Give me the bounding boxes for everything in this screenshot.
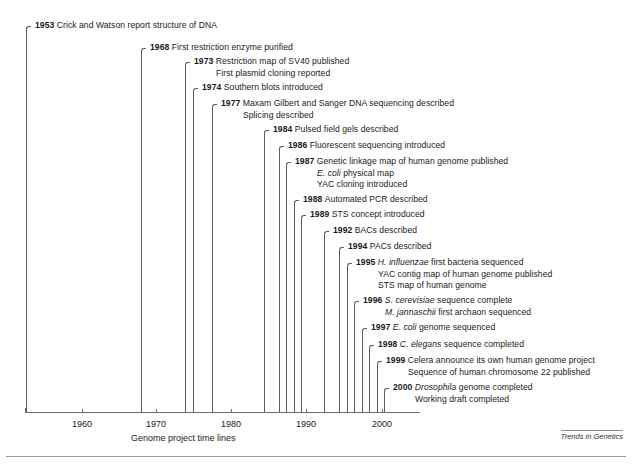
event-label-line: M. jannaschii first archaon sequenced — [363, 307, 531, 319]
event-text: STS map of human genome — [378, 280, 487, 290]
event-species-name: Drosophila — [415, 382, 457, 392]
genome-timeline-figure: 1953 Crick and Watson report structure o… — [0, 0, 635, 471]
event-label-line: Splicing described — [221, 110, 454, 122]
axis-tick-1990 — [306, 409, 307, 413]
event-label-2000: 2000 Drosophila genome completedWorking … — [393, 382, 533, 405]
timeline-leader-1996 — [354, 301, 359, 412]
event-year: 1987 — [295, 156, 317, 166]
event-label-line: 1973 Restriction map of SV40 published — [194, 56, 349, 68]
timeline-leader-1984 — [264, 130, 269, 412]
event-label-1987: 1987 Genetic linkage map of human genome… — [295, 156, 508, 191]
axis-left-cap — [25, 408, 26, 412]
event-text: STS concept introduced — [332, 209, 425, 219]
event-year: 1986 — [288, 140, 310, 150]
event-label-1997: 1997 E. coli genome sequenced — [371, 322, 495, 334]
event-text: genome sequenced — [417, 322, 496, 332]
event-label-line: 1968 First restriction enzyme purified — [150, 42, 293, 54]
event-label-line: 1998 C. elegans sequence completed — [378, 339, 524, 351]
event-label-1998: 1998 C. elegans sequence completed — [378, 339, 524, 351]
timeline-leader-1968 — [141, 48, 146, 412]
event-year: 1973 — [194, 56, 216, 66]
timeline-leader-1992 — [324, 231, 329, 412]
event-year: 1999 — [386, 355, 408, 365]
event-label-line: 1992 BACs described — [333, 225, 417, 237]
event-text: Working draft completed — [415, 394, 509, 404]
event-species-name: C. elegans — [400, 339, 442, 349]
event-label-line: YAC cloning introduced — [295, 179, 508, 191]
timeline-leader-1988 — [294, 200, 299, 412]
event-species-name: E. coli — [317, 168, 341, 178]
event-label-line: 1988 Automated PCR described — [303, 194, 428, 206]
event-species-name: H. influenzae — [378, 257, 429, 267]
event-label-1986: 1986 Fluorescent sequencing introduced — [288, 140, 445, 152]
timeline-leader-2000 — [384, 388, 389, 412]
event-label-1953: 1953 Crick and Watson report structure o… — [35, 20, 217, 32]
event-text: First plasmid cloning reported — [216, 68, 330, 78]
event-text: Crick and Watson report structure of DNA — [57, 20, 217, 30]
event-label-line: 1999 Celera announce its own human genom… — [386, 355, 595, 367]
event-text: Maxam Gilbert and Sanger DNA sequencing … — [243, 98, 454, 108]
event-text: genome completed — [456, 382, 532, 392]
event-year: 1953 — [35, 20, 57, 30]
event-label-1973: 1973 Restriction map of SV40 publishedFi… — [194, 56, 349, 79]
event-label-line: 1987 Genetic linkage map of human genome… — [295, 156, 508, 168]
timeline-leader-1987 — [286, 162, 291, 412]
event-label-1984: 1984 Pulsed field gels described — [273, 124, 398, 136]
event-text: Splicing described — [243, 110, 314, 120]
event-label-line: 1977 Maxam Gilbert and Sanger DNA sequen… — [221, 98, 454, 110]
event-label-line: 1984 Pulsed field gels described — [273, 124, 398, 136]
timeline-leader-1973 — [185, 62, 190, 412]
event-year: 1984 — [273, 124, 295, 134]
axis-tick-label-2000: 2000 — [372, 419, 392, 429]
event-text: Restriction map of SV40 published — [216, 56, 350, 66]
event-label-line: E. coli physical map — [295, 168, 508, 180]
timeline-leader-1999 — [377, 361, 382, 412]
event-label-line: 1997 E. coli genome sequenced — [371, 322, 495, 334]
event-text: first archaon sequenced — [436, 307, 531, 317]
event-year: 1995 — [356, 257, 378, 267]
timeline-leader-1977 — [212, 104, 217, 412]
axis-tick-label-1960: 1960 — [72, 419, 92, 429]
journal-mark-rule — [561, 430, 623, 431]
event-year: 1988 — [303, 194, 325, 204]
event-label-line: First plasmid cloning reported — [194, 68, 349, 80]
event-label-1977: 1977 Maxam Gilbert and Sanger DNA sequen… — [221, 98, 454, 121]
event-label-line: 1994 PACs described — [348, 241, 431, 253]
event-label-line: 1974 Southern blots introduced — [202, 82, 323, 94]
event-label-line: 1953 Crick and Watson report structure o… — [35, 20, 217, 32]
event-label-line: 1996 S. cerevisiae sequence complete — [363, 295, 531, 307]
event-label-1996: 1996 S. cerevisiae sequence completeM. j… — [363, 295, 531, 318]
event-label-line: 1989 STS concept introduced — [310, 209, 425, 221]
event-species-name: M. jannaschii — [385, 307, 436, 317]
timeline-leader-1997 — [362, 328, 367, 412]
timeline-plot-area: 1953 Crick and Watson report structure o… — [0, 0, 635, 420]
timeline-leader-1989 — [301, 215, 306, 412]
event-label-line: Working draft completed — [393, 394, 533, 406]
event-label-1988: 1988 Automated PCR described — [303, 194, 428, 206]
event-label-1992: 1992 BACs described — [333, 225, 417, 237]
event-year: 1994 — [348, 241, 370, 251]
event-year: 1968 — [150, 42, 172, 52]
event-text: sequence complete — [435, 295, 513, 305]
event-text: Sequence of human chromosome 22 publishe… — [408, 367, 590, 377]
event-label-line: 1986 Fluorescent sequencing introduced — [288, 140, 445, 152]
event-text: Celera announce its own human genome pro… — [408, 355, 595, 365]
axis-tick-1960 — [82, 409, 83, 413]
event-text: YAC contig map of human genome published — [378, 269, 552, 279]
event-species-name: E. coli — [393, 322, 417, 332]
event-label-1974: 1974 Southern blots introduced — [202, 82, 323, 94]
event-year: 1992 — [333, 225, 355, 235]
timeline-axis-line — [25, 412, 420, 413]
event-year: 2000 — [393, 382, 415, 392]
event-text: Fluorescent sequencing introduced — [310, 140, 445, 150]
event-text: sequence completed — [441, 339, 524, 349]
axis-tick-2000 — [382, 409, 383, 413]
event-text: BACs described — [355, 225, 417, 235]
event-text: Southern blots introduced — [224, 82, 323, 92]
timeline-leader-1974 — [193, 88, 198, 412]
timeline-leader-1998 — [369, 345, 374, 412]
event-species-name: S. cerevisiae — [385, 295, 435, 305]
event-year: 1996 — [363, 295, 385, 305]
axis-tick-label-1990: 1990 — [296, 419, 316, 429]
event-text: Automated PCR described — [325, 194, 428, 204]
